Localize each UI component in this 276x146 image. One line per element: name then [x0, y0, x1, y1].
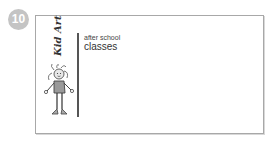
page-number-badge: 10 [8, 9, 29, 30]
brand-logo-text: Kid Art [52, 15, 63, 56]
card-title: classes [84, 41, 117, 52]
business-card: Kid Art after school classes [35, 15, 264, 134]
child-figure-icon [40, 64, 80, 120]
card-subtitle: after school [84, 34, 120, 41]
